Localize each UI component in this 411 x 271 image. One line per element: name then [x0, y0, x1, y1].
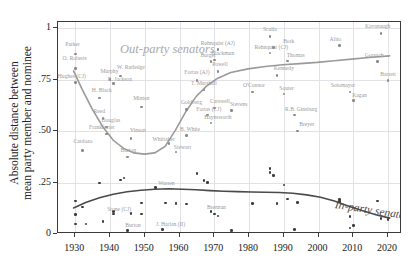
data-point-label: Whittaker	[152, 137, 174, 143]
data-point	[338, 44, 341, 47]
data-point	[217, 215, 220, 218]
data-point	[140, 106, 143, 109]
data-point	[102, 220, 105, 223]
data-point	[203, 89, 206, 92]
y-tick-mark	[53, 79, 57, 80]
data-point-label: Reed	[94, 109, 106, 115]
data-point	[130, 137, 133, 140]
y-axis-label-line-1: Absolute distance between	[8, 61, 20, 184]
data-point	[161, 228, 164, 231]
x-tick-mark	[318, 233, 319, 237]
gridline-vertical	[284, 22, 285, 232]
data-point	[123, 177, 126, 180]
data-point	[269, 167, 272, 170]
data-point-label: Breyer	[299, 122, 314, 128]
data-point	[380, 32, 383, 35]
x-tick-mark	[387, 233, 388, 237]
y-axis-label: Absolute distance between mean party mem…	[0, 0, 40, 245]
data-point-label: Alito	[330, 37, 342, 43]
x-tick-label: 2010	[342, 242, 362, 253]
gridline-horizontal	[58, 131, 400, 132]
data-point-label: J. Harlan (II)	[156, 222, 185, 228]
x-tick-mark	[248, 233, 249, 237]
data-point	[175, 202, 178, 205]
data-point-label: Kagan	[352, 93, 367, 99]
gridline-vertical	[388, 22, 389, 232]
data-point	[185, 203, 188, 206]
data-point-label: Fortas (CJ)	[196, 107, 221, 113]
y-tick-label: .50	[31, 124, 51, 135]
data-point	[74, 213, 77, 216]
data-point-label: Fortas (AJ)	[184, 70, 209, 76]
data-point	[105, 133, 108, 136]
data-point-label: Minton	[133, 96, 149, 102]
data-point	[210, 210, 213, 213]
data-point-label: Burton	[125, 223, 141, 229]
x-tick-label: 1950	[134, 242, 154, 253]
data-point-label: Haynsworth	[204, 115, 231, 121]
data-point-label: Cardozo	[74, 139, 93, 145]
data-point-label: Kavanaugh	[365, 24, 390, 30]
data-point-label: Stewart	[174, 145, 191, 151]
data-point	[251, 91, 254, 94]
data-point	[276, 74, 279, 77]
data-point-label: Carswell	[210, 99, 230, 105]
gridline-horizontal	[58, 183, 400, 184]
data-point	[293, 228, 296, 231]
x-tick-label: 1930	[64, 242, 84, 253]
data-point	[286, 60, 289, 63]
data-point-label: O. Roberts	[63, 56, 87, 62]
data-point-label: Scalia	[263, 27, 277, 33]
data-point	[349, 215, 352, 218]
data-point	[349, 227, 352, 230]
data-point	[272, 174, 275, 177]
chart-figure: Absolute distance between mean party mem…	[0, 0, 411, 271]
data-point	[269, 35, 272, 38]
data-point-label: Parker	[65, 42, 80, 48]
data-point	[380, 217, 383, 220]
data-point	[286, 198, 289, 201]
x-tick-mark	[144, 233, 145, 237]
data-point	[196, 172, 199, 175]
plot-area: ParkerO. RobertsHughes (CJ)CardozoH. Bla…	[57, 21, 401, 233]
data-point	[206, 181, 209, 184]
data-point-label: Stone (CJ)	[107, 207, 131, 213]
data-point-label: Bork	[283, 39, 294, 45]
data-point	[98, 182, 101, 185]
data-point	[269, 171, 272, 174]
data-point	[140, 202, 143, 205]
data-point	[296, 201, 299, 204]
data-point	[185, 134, 188, 137]
data-point-label: R. Jackson	[108, 77, 132, 83]
data-point	[352, 224, 355, 227]
data-point	[85, 223, 88, 226]
data-point	[126, 156, 129, 159]
data-point-label: Powell	[212, 62, 228, 68]
data-point	[154, 186, 157, 189]
data-point-label: Souter	[279, 86, 294, 92]
in-party-annotation: In-party senators	[334, 198, 401, 222]
data-point-label: H. Black	[92, 88, 112, 94]
data-point-label: Frankfurter	[89, 125, 114, 131]
data-point	[81, 206, 84, 209]
x-tick-mark	[213, 233, 214, 237]
y-tick-label: .25	[31, 176, 51, 187]
data-point	[293, 114, 296, 117]
data-point	[140, 213, 143, 216]
data-point-label: Sotomayor	[331, 83, 356, 89]
x-tick-label: 1990	[273, 242, 293, 253]
data-point	[210, 122, 213, 125]
data-point	[376, 60, 379, 63]
data-point-label: Rehnquist (CJ)	[254, 45, 288, 51]
data-point	[203, 179, 206, 182]
data-point	[164, 202, 167, 205]
x-tick-label: 1960	[169, 242, 189, 253]
data-point-label: R.B. Ginsburg	[285, 107, 317, 113]
data-point-label: Brennan	[207, 205, 226, 211]
data-point	[230, 109, 233, 112]
data-point-label: Thomas	[287, 53, 305, 59]
x-tick-mark	[352, 233, 353, 237]
data-point-label: B. White	[180, 127, 200, 133]
data-point	[98, 97, 101, 100]
data-point	[217, 70, 220, 73]
